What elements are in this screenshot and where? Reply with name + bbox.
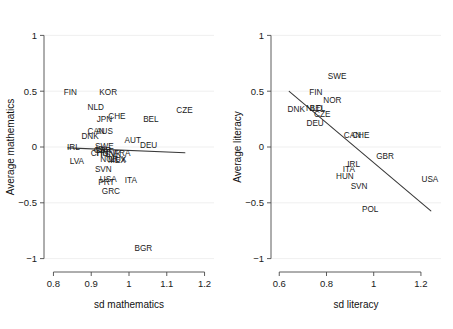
- point-label-cze: CZE: [176, 106, 193, 115]
- y-tick-label: −1: [253, 253, 264, 264]
- point-label-hun: HUN: [336, 172, 354, 181]
- y-tick-label: 1: [259, 30, 264, 41]
- scatter-figure: 10.50−0.5−10.80.911.11.2FINKORNLDCZEJPNC…: [0, 0, 453, 329]
- point-label-mex: MEX: [108, 156, 126, 165]
- point-label-deu: DEU: [307, 119, 324, 128]
- x-tick-label: 1.2: [198, 278, 211, 289]
- point-label-lva: LVA: [70, 157, 85, 166]
- x-tick-label: 1: [371, 278, 376, 289]
- x-tick-label: 1: [126, 278, 131, 289]
- y-tick-label: 0: [259, 141, 264, 152]
- point-label-bgr: BGR: [134, 244, 152, 253]
- point-label-nor: NOR: [323, 96, 341, 105]
- point-label-svn: SVN: [95, 165, 112, 174]
- x-tick-label: 0.6: [273, 278, 286, 289]
- y-tick-label: 1: [32, 30, 37, 41]
- panel-mathematics: 10.50−0.5−10.80.911.11.2FINKORNLDCZEJPNC…: [0, 0, 226, 329]
- point-label-irl: IRL: [67, 143, 80, 152]
- point-label-bel: BEL: [143, 115, 159, 124]
- panel-literacy: 10.50−0.5−10.60.811.2SWEFINNORDNKNLDBELC…: [227, 0, 453, 329]
- point-label-aut: AUT: [125, 136, 141, 145]
- point-label-deu: DEU: [140, 141, 157, 150]
- point-label-fin: FIN: [309, 88, 322, 97]
- y-tick-label: −1: [26, 253, 37, 264]
- point-label-pol: POL: [362, 205, 379, 214]
- point-label-fin: FIN: [64, 88, 77, 97]
- point-label-svn: SVN: [351, 182, 368, 191]
- point-label-usa: USA: [421, 175, 438, 184]
- literacy-plot: 10.50−0.5−10.60.811.2SWEFINNORDNKNLDBELC…: [227, 0, 453, 329]
- point-label-ita: ITA: [125, 176, 138, 185]
- x-tick-label: 1.2: [414, 278, 427, 289]
- x-tick-label: 0.8: [320, 278, 333, 289]
- x-axis-title: sd mathematics: [94, 299, 164, 310]
- point-label-che: CHE: [352, 131, 370, 140]
- x-tick-label: 1.1: [160, 278, 173, 289]
- point-label-gbr: GBR: [376, 152, 394, 161]
- point-label-cze: CZE: [314, 110, 331, 119]
- point-label-dnk: DNK: [288, 105, 306, 114]
- y-axis-title: Average literacy: [232, 111, 243, 183]
- y-tick-label: −0.5: [245, 197, 264, 208]
- x-tick-label: 0.8: [47, 278, 60, 289]
- point-label-dnk: DNK: [81, 132, 99, 141]
- x-axis-title: sd literacy: [333, 299, 378, 310]
- y-tick-label: 0: [32, 141, 37, 152]
- point-label-nld: NLD: [88, 103, 104, 112]
- mathematics-plot: 10.50−0.5−10.80.911.11.2FINKORNLDCZEJPNC…: [0, 0, 226, 329]
- y-axis-title: Average mathematics: [5, 99, 16, 196]
- y-tick-label: −0.5: [18, 197, 37, 208]
- point-label-grc: GRC: [102, 187, 120, 196]
- point-label-swe: SWE: [328, 72, 347, 81]
- point-label-kor: KOR: [99, 88, 117, 97]
- point-label-che: CHE: [108, 112, 126, 121]
- x-tick-label: 0.9: [85, 278, 98, 289]
- y-tick-label: 0.5: [251, 86, 264, 97]
- y-tick-label: 0.5: [24, 86, 37, 97]
